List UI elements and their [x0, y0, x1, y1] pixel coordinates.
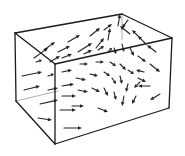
arrow-icon — [113, 92, 116, 100]
box-edge — [55, 108, 169, 144]
box-edge — [169, 38, 172, 108]
arrow-icon — [84, 50, 92, 54]
arrow-icon — [64, 126, 82, 130]
arrow-icon — [150, 94, 160, 100]
box-edge — [122, 14, 172, 38]
arrow-icon — [62, 54, 72, 58]
arrow-icon — [147, 45, 156, 52]
arrow-icon — [68, 35, 80, 42]
arrow-icon — [130, 48, 134, 56]
box-edge — [15, 33, 55, 64]
arrow-icon — [138, 84, 150, 88]
arrow-icon — [36, 59, 42, 62]
arrow-icon — [132, 96, 136, 104]
arrow-icon — [112, 78, 116, 84]
arrow-icon — [58, 46, 70, 52]
arrow-icon — [138, 56, 146, 62]
arrow-icon — [108, 28, 112, 40]
arrow-icon — [138, 78, 146, 82]
box-diagram — [0, 0, 185, 156]
hidden-box-edge — [16, 91, 58, 101]
arrow-icon — [104, 72, 110, 76]
arrow-icon — [96, 60, 104, 64]
arrow-icon — [22, 71, 42, 76]
arrow-icon — [122, 20, 128, 28]
box-edge — [16, 101, 55, 144]
arrow-icon — [62, 94, 76, 98]
arrow-icon — [134, 82, 140, 88]
arrow-icon — [92, 88, 100, 92]
box-edge — [15, 14, 122, 33]
arrow-icon — [38, 118, 52, 122]
arrow-icon — [72, 104, 84, 108]
arrow-icon — [78, 89, 88, 93]
arrow-icon — [90, 28, 100, 36]
arrow-icon — [136, 69, 144, 72]
arrow-icon — [62, 69, 72, 73]
arrow-icon — [44, 42, 55, 50]
arrow-icon — [110, 62, 116, 66]
arrow-icon — [90, 73, 98, 76]
arrow-icon — [138, 36, 146, 44]
arrow-icon — [104, 24, 112, 30]
arrow-icon — [60, 108, 76, 112]
arrow-icon — [98, 108, 108, 112]
box-edge — [15, 33, 16, 101]
arrow-icon — [48, 73, 54, 76]
arrow-icon — [48, 87, 58, 91]
arrow-icon — [50, 56, 60, 62]
arrow-icon — [119, 76, 122, 84]
arrow-icon — [118, 14, 122, 26]
arrow-icon — [24, 85, 40, 90]
arrow-icon — [80, 62, 88, 66]
arrow-icon — [150, 64, 160, 72]
arrow-icon — [121, 96, 125, 106]
arrow-icon — [76, 77, 86, 81]
arrow-icon — [62, 83, 74, 87]
arrow-icon — [120, 64, 126, 70]
arrow-icon — [104, 88, 108, 96]
arrow-icon — [98, 46, 104, 50]
arrow-icon — [128, 70, 134, 74]
vector-field-diagram — [0, 0, 185, 156]
vector-arrows — [22, 14, 160, 130]
arrow-icon — [120, 26, 130, 34]
arrow-icon — [125, 84, 128, 92]
